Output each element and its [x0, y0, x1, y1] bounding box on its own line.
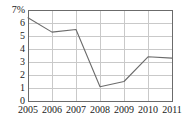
y-tick-label-4: 4: [20, 44, 25, 54]
y-tick-label-5: 5: [20, 31, 25, 41]
x-tick-label-2011: 2011: [159, 105, 185, 115]
x-tick-label-2010: 2010: [135, 105, 161, 115]
line-chart: 01234567% 2005200620072008200920102011: [0, 0, 192, 124]
x-tick-label-2007: 2007: [63, 105, 89, 115]
x-tick-label-2009: 2009: [111, 105, 137, 115]
y-tick-label-2: 2: [20, 70, 25, 80]
y-tick-label-3: 3: [20, 57, 25, 67]
y-tick-label-7: 7%: [12, 5, 25, 15]
x-tick-label-2006: 2006: [39, 105, 65, 115]
y-tick-label-1: 1: [20, 83, 25, 93]
x-tick-label-2008: 2008: [87, 105, 113, 115]
x-tick-label-2005: 2005: [15, 105, 41, 115]
y-tick-label-6: 6: [20, 18, 25, 28]
